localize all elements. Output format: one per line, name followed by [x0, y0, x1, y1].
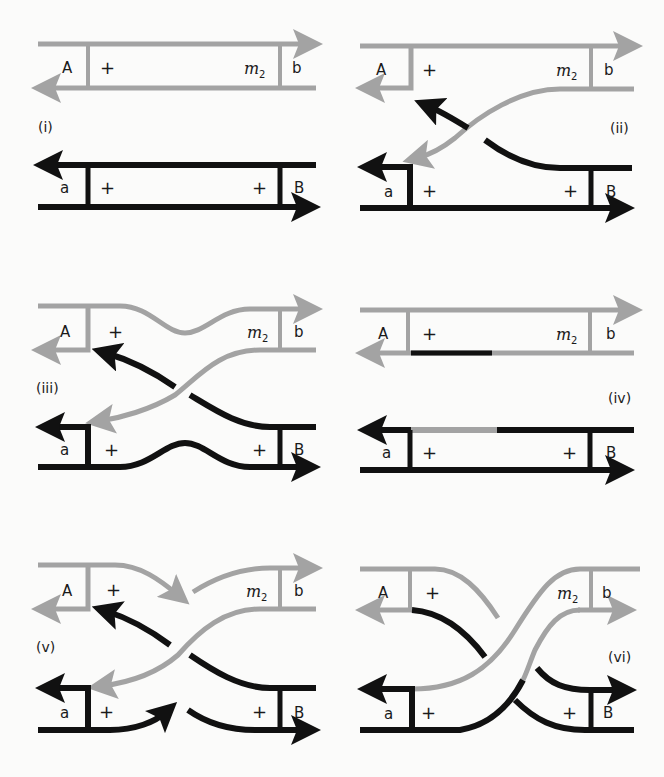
label-A: A	[60, 323, 71, 341]
strand-bottom-black-nicked-right	[188, 710, 306, 730]
strand-grey-crossover-2	[523, 610, 580, 680]
marker-m: m	[557, 584, 572, 603]
panel-ii: A + m 2 b (ii) a + + B	[360, 46, 634, 208]
marker-sub: 2	[571, 335, 577, 346]
panel-iii: A + m 2 b (iii) a + + B	[36, 306, 316, 467]
marker-sub: 2	[259, 69, 265, 80]
label-B: B	[603, 704, 613, 722]
plus-sign: +	[104, 439, 119, 460]
panel-v: A + m 2 b (v) a + + B	[36, 565, 316, 730]
label-A: A	[62, 582, 73, 600]
marker-sub: 2	[571, 71, 577, 82]
plus-sign: +	[562, 442, 577, 463]
label-B: B	[294, 179, 304, 197]
panel-label: (iv)	[608, 390, 631, 406]
panel-label: (iii)	[36, 380, 59, 396]
label-B: B	[294, 441, 304, 459]
label-a: a	[60, 704, 69, 722]
plus-sign: +	[421, 702, 436, 723]
strand-black-crossing-upper	[428, 106, 468, 128]
plus-sign: +	[99, 701, 114, 722]
panel-i: A + m 2 b (i) a + + B	[38, 44, 316, 207]
plus-sign: +	[422, 59, 437, 80]
marker-m: m	[246, 582, 261, 601]
plus-sign: +	[252, 439, 267, 460]
label-a: a	[382, 444, 391, 462]
label-B: B	[294, 704, 304, 722]
panel-label: (vi)	[608, 649, 631, 665]
label-A: A	[62, 59, 73, 77]
marker-m: m	[247, 323, 262, 342]
panel-iv: A + m 2 b (iv) a + + B	[360, 310, 634, 470]
plus-sign: +	[252, 177, 267, 198]
strand-top-grey-wavy	[38, 306, 308, 333]
marker-sub: 2	[572, 594, 578, 605]
marker-m: m	[556, 61, 571, 80]
plus-sign: +	[100, 57, 115, 78]
plus-sign: +	[422, 323, 437, 344]
panel-label: (ii)	[610, 120, 629, 136]
label-A: A	[378, 584, 389, 602]
plus-sign: +	[425, 582, 440, 603]
label-b: b	[292, 59, 302, 77]
label-a: a	[384, 705, 393, 723]
marker-m: m	[244, 59, 259, 78]
plus-sign: +	[422, 180, 437, 201]
label-a: a	[60, 179, 69, 197]
strand-black-B-top	[537, 668, 622, 690]
label-b: b	[606, 325, 616, 343]
strand-grey-crossing	[417, 89, 634, 158]
recombination-diagram: A + m 2 b (i) a + + B A + m 2 b (ii) a +…	[0, 0, 664, 777]
strand-black-crossing-lower	[190, 395, 316, 427]
plus-sign: +	[108, 321, 123, 342]
label-b: b	[604, 61, 614, 79]
label-B: B	[606, 444, 616, 462]
label-a: a	[60, 441, 69, 459]
strand-black-crossing-lower	[190, 655, 316, 688]
plus-sign: +	[562, 702, 577, 723]
panel-vi: A + m 2 b (vi) a + + B	[360, 569, 640, 730]
label-b: b	[294, 323, 304, 341]
label-a: a	[384, 183, 393, 201]
plus-sign: +	[252, 701, 267, 722]
strand-black-A-bottom-cut	[412, 610, 485, 657]
label-b: b	[294, 582, 304, 600]
strand-black-crossing-upper	[106, 611, 170, 645]
panel-label: (v)	[36, 639, 55, 655]
plus-sign: +	[106, 579, 121, 600]
marker-sub: 2	[262, 333, 268, 344]
label-A: A	[376, 61, 387, 79]
marker-m: m	[556, 325, 571, 344]
label-b: b	[602, 584, 612, 602]
strand-black-crossing-upper	[106, 353, 175, 387]
plus-sign: +	[100, 177, 115, 198]
label-B: B	[606, 183, 616, 201]
strand-black-crossing-lower	[485, 140, 632, 168]
marker-sub: 2	[261, 592, 267, 603]
plus-sign: +	[422, 442, 437, 463]
label-A: A	[378, 325, 389, 343]
plus-sign: +	[563, 180, 578, 201]
panel-label: (i)	[38, 119, 53, 135]
